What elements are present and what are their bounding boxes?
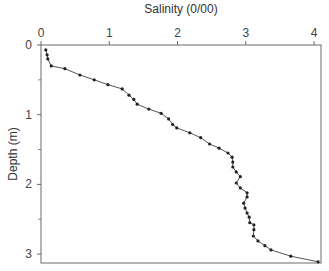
data-point xyxy=(231,161,234,164)
data-point xyxy=(256,239,259,242)
y-tick-label: 0 xyxy=(25,38,32,52)
data-point xyxy=(252,234,255,237)
data-point xyxy=(78,73,81,76)
y-tick-label: 2 xyxy=(25,177,32,191)
data-point xyxy=(121,87,124,90)
data-point xyxy=(46,53,49,56)
data-point xyxy=(239,175,242,178)
data-point xyxy=(167,117,170,120)
x-tick-label: 4 xyxy=(311,26,318,40)
data-point xyxy=(132,98,135,101)
data-point xyxy=(106,83,109,86)
data-point xyxy=(244,207,247,210)
data-point xyxy=(246,191,249,194)
salinity-profile-line xyxy=(46,50,318,262)
x-tick-label: 0 xyxy=(38,26,45,40)
data-point xyxy=(171,123,174,126)
x-tick-label: 2 xyxy=(174,26,181,40)
data-point xyxy=(93,78,96,81)
data-point xyxy=(44,48,47,51)
data-point xyxy=(289,255,292,258)
data-point xyxy=(246,195,249,198)
x-tick-label: 1 xyxy=(106,26,113,40)
data-point xyxy=(188,131,191,134)
data-point xyxy=(147,108,150,111)
data-point xyxy=(175,126,178,129)
data-point xyxy=(248,221,251,224)
data-point xyxy=(269,248,272,251)
data-point xyxy=(239,186,242,189)
data-point xyxy=(231,165,234,168)
x-axis-ticks: 01234 xyxy=(38,26,318,45)
data-point xyxy=(208,142,211,145)
data-point xyxy=(263,244,266,247)
data-point xyxy=(63,67,66,70)
data-point xyxy=(252,223,255,226)
y-axis-title: Depth (m) xyxy=(6,127,20,180)
plot-frame xyxy=(41,45,321,263)
data-point xyxy=(160,112,163,115)
data-point xyxy=(235,181,238,184)
data-point xyxy=(199,136,202,139)
data-point xyxy=(231,156,234,159)
x-axis-title: Salinity (0/00) xyxy=(144,2,217,16)
data-point-markers xyxy=(44,48,320,263)
data-point xyxy=(127,94,130,97)
y-axis-ticks: 0123 xyxy=(25,38,41,261)
data-point xyxy=(218,147,221,150)
data-point xyxy=(50,64,53,67)
data-point xyxy=(246,211,249,214)
data-point xyxy=(242,202,245,205)
data-point xyxy=(317,260,320,263)
y-tick-label: 3 xyxy=(25,247,32,261)
data-point xyxy=(226,151,229,154)
data-point xyxy=(136,103,139,106)
data-point xyxy=(235,170,238,173)
data-point xyxy=(248,216,251,219)
salinity-depth-chart: Salinity (0/00) Depth (m) 01234 0123 xyxy=(0,0,329,271)
y-tick-label: 1 xyxy=(25,108,32,122)
data-point xyxy=(252,228,255,231)
x-tick-label: 3 xyxy=(242,26,249,40)
data-point xyxy=(46,57,49,60)
